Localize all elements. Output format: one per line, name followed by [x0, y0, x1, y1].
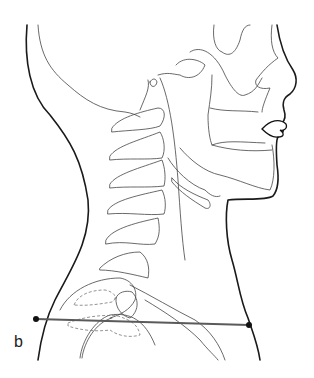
spinal-column [160, 78, 185, 260]
vertebra-c5 [108, 190, 165, 215]
vertebra-c3 [110, 132, 164, 160]
teeth-lower [212, 142, 265, 145]
hidden-clavicle-outline [68, 315, 140, 336]
vertebra-c6 [106, 218, 159, 244]
mastoid-outline [158, 59, 205, 77]
zygomatic-outline [213, 25, 250, 54]
vertebra-c4 [110, 160, 165, 188]
lips [262, 121, 286, 138]
reference-line-start-point [33, 316, 39, 322]
head-neck-illustration [0, 0, 314, 378]
face-profile [226, 25, 296, 360]
ramus-line [208, 75, 272, 151]
vertebra-c7 [100, 252, 149, 278]
maxilla-outline [256, 25, 278, 112]
atlas-process [140, 79, 157, 110]
panel-label: b [14, 333, 23, 351]
mandible-inner [168, 158, 220, 197]
reference-line-end-point [246, 322, 252, 328]
acromion [116, 291, 137, 318]
teeth-upper [210, 108, 258, 112]
scapula-outline [60, 278, 136, 318]
mandible-outline [180, 145, 274, 190]
hidden-scapula-outline [74, 290, 115, 305]
skull-base-line [38, 25, 140, 117]
